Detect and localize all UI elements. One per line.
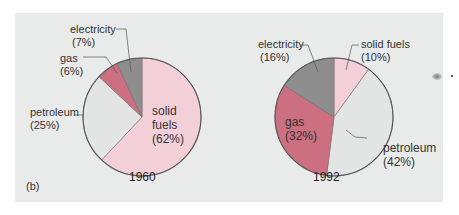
- label-1992-gas: gas (32%): [285, 115, 317, 143]
- scan-smudge: [432, 73, 442, 80]
- label-1992-petroleum: petroleum (42%): [383, 141, 436, 169]
- year-label-1992: 1992: [313, 170, 340, 184]
- panel-label: (b): [26, 180, 39, 192]
- label-1992-electricity: electricity (16%): [258, 38, 304, 64]
- label-1960-electricity: electricity (7%): [70, 23, 116, 49]
- scan-dot: [451, 75, 453, 77]
- label-1960-solid-fuels: solid fuels (62%): [152, 104, 184, 146]
- label-1960-gas: gas (6%): [60, 52, 83, 78]
- year-label-1960: 1960: [129, 170, 156, 184]
- label-1992-solid-fuels: solid fuels (10%): [361, 38, 410, 64]
- label-1960-petroleum: petroleum (25%): [30, 106, 79, 132]
